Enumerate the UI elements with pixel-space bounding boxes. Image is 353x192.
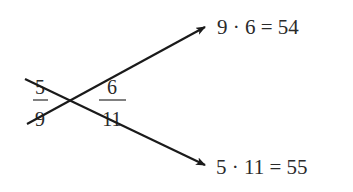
product-top: 9 · 6 = 54: [217, 15, 299, 39]
product-bottom: 5 · 11 = 55: [216, 155, 308, 179]
cross-multiplication-diagram: 5 9 6 11 9 · 6 = 54 5 · 11 = 55: [0, 0, 353, 192]
fraction-right-denominator: 11: [102, 108, 121, 130]
